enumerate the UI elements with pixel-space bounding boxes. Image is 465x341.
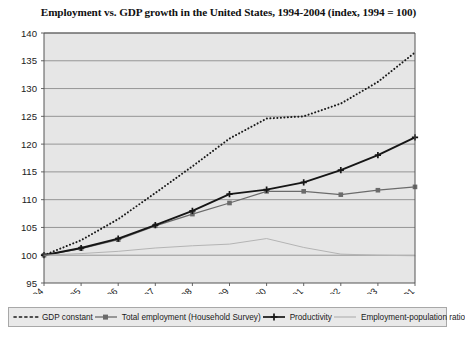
y-axis-tick-label: 115 [22,166,37,177]
x-axis-tick-label: 1999 [208,286,231,294]
x-axis-tick-label: 2003 [357,286,380,294]
x-axis-tick-label: 2001 [283,286,306,294]
x-axis-tick-label: 1995 [60,286,83,294]
x-axis-tick-labels: 1994199519961997199819992000200120022003… [23,283,417,294]
y-axis-tick-label: 105 [21,222,37,233]
y-axis-tick-label: 135 [21,55,37,66]
dotted-line-marker-icon [13,312,39,322]
bold-cross-marker-icon [261,312,287,322]
x-axis-tick-label: 2002 [320,286,343,294]
data-point-marker [339,192,344,197]
chart-title: Employment vs. GDP growth in the United … [0,6,457,18]
legend-label-productivity: Productivity [290,313,332,322]
plot-area-wrapper: 95100105110115120125130135140 1994199519… [0,26,457,294]
thin-line-marker-icon [332,312,358,322]
x-axis-tick-label: 2000 [245,286,268,294]
chart-legend: GDP constant Total employment (Household… [8,307,447,327]
y-axis-tick-label: 125 [21,111,37,122]
y-axis-tick-label: 130 [21,83,37,94]
legend-label-gdp-constant: GDP constant [42,313,93,322]
y-axis-tick-label: 120 [21,139,37,150]
y-axis-tick-labels: 95100105110115120125130135140 [21,28,37,289]
legend-label-employment-population-ratio: Employment-population ratio [361,313,465,322]
y-axis-tick-label: 110 [22,194,37,205]
plot-background [44,33,415,283]
legend-item-gdp-constant: GDP constant [13,312,93,322]
x-axis-tick-label: 1997 [134,286,157,294]
y-axis-tick-label: 140 [21,28,37,39]
legend-item-productivity: Productivity [261,312,332,322]
x-axis-tick-label: 1996 [97,286,120,294]
solid-square-marker-icon [93,312,119,322]
x-axis-tick-label: 1998 [171,286,194,294]
data-point-marker [376,188,381,193]
plot-svg: 95100105110115120125130135140 1994199519… [0,26,457,294]
data-point-marker [301,189,306,194]
legend-item-total-employment: Total employment (Household Survey) [93,312,261,322]
legend-item-employment-population-ratio: Employment-population ratio [332,312,465,322]
x-axis-tick-label: 2004 Q1 [383,286,416,294]
legend-label-total-employment: Total employment (Household Survey) [122,313,261,322]
y-axis-tick-label: 100 [21,250,37,261]
data-point-marker [227,201,232,206]
